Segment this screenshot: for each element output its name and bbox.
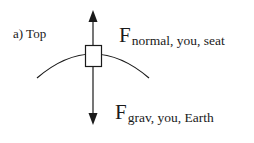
- normal-force-arrowhead-icon: [89, 10, 98, 22]
- panel-label: a) Top: [13, 27, 46, 40]
- normal-force-symbol: F: [119, 25, 131, 46]
- normal-force-subscript: normal, you, seat: [132, 34, 225, 48]
- object-box: [86, 46, 102, 67]
- gravity-force-subscript: grav, you, Earth: [128, 111, 214, 125]
- normal-force-label: F normal, you, seat: [119, 25, 225, 48]
- gravity-force-symbol: F: [115, 102, 127, 123]
- gravity-force-label: F grav, you, Earth: [115, 102, 214, 125]
- free-body-diagram: a) Top F normal, you, seat F grav, you, …: [0, 0, 254, 143]
- gravity-force-arrowhead-icon: [89, 113, 98, 125]
